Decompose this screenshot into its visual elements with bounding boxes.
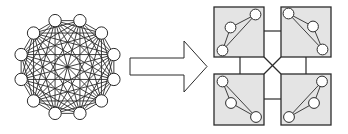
- graph-node: [27, 95, 39, 107]
- cluster-node: [317, 76, 328, 87]
- cluster-node: [217, 45, 228, 56]
- diagram-canvas: [0, 0, 348, 134]
- graph-node: [49, 107, 61, 119]
- complete-graph: [15, 14, 120, 119]
- cluster-node: [317, 44, 328, 55]
- cluster-node: [226, 98, 237, 109]
- graph-node: [15, 48, 27, 60]
- cluster-node: [309, 98, 320, 109]
- cluster-top-right: [281, 7, 331, 57]
- cluster-node: [225, 22, 236, 33]
- graph-node: [74, 14, 86, 26]
- cluster-bottom-left: [214, 74, 264, 125]
- graph-node: [49, 14, 61, 26]
- diagram-svg: [0, 0, 348, 134]
- cluster-node: [308, 21, 319, 32]
- graph-node: [95, 27, 107, 39]
- cluster-node: [250, 9, 261, 20]
- graph-node: [74, 107, 86, 119]
- cluster-node: [217, 76, 228, 87]
- cluster-bottom-right: [281, 74, 331, 125]
- clustered-graph: [214, 7, 331, 125]
- graph-node: [15, 73, 27, 85]
- graph-node: [95, 95, 107, 107]
- graph-node: [108, 48, 120, 60]
- graph-node: [27, 27, 39, 39]
- cluster-node: [251, 112, 262, 123]
- cluster-node: [283, 8, 294, 19]
- center-hub: [66, 65, 69, 68]
- transform-arrow-icon: [130, 41, 207, 92]
- cluster-node: [284, 112, 295, 123]
- cluster-top-left: [214, 7, 264, 57]
- graph-node: [108, 73, 120, 85]
